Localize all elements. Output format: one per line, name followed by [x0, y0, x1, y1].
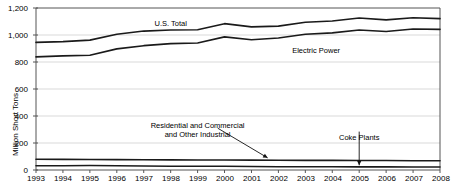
plot-area [0, 0, 463, 192]
annotation-electric-power: Electric Power [85, 46, 463, 55]
series-lines [36, 18, 440, 167]
annotation-residential-line1: Residential and Commercial [0, 121, 429, 130]
coal-consumption-line-chart: Million Short Tons 1,200 1,000 800 600 4… [0, 0, 463, 192]
annotation-coke-plants: Coke Plants [128, 133, 463, 142]
annotation-us-total: U.S. Total [0, 19, 402, 28]
series-line-4 [36, 166, 440, 167]
series-line-3 [36, 159, 440, 161]
